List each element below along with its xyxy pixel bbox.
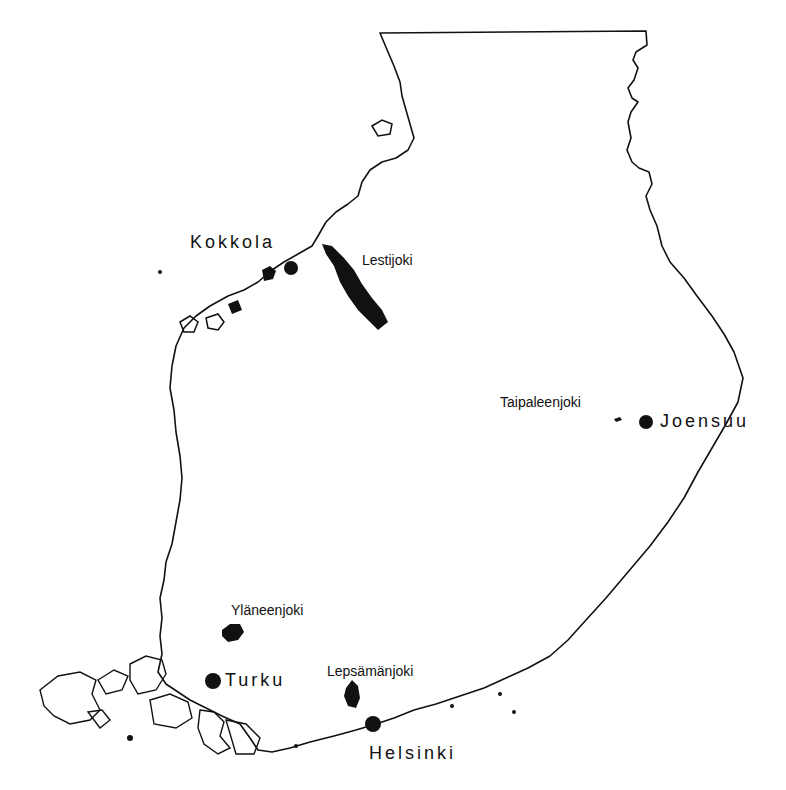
river-label-taipaleenjoki: Taipaleenjoki [500,394,581,410]
city-label-kokkola: Kokkola [190,232,275,253]
south-coast-islands [127,270,516,748]
turku-marker [205,673,221,689]
river-label-lestijoki: Lestijoki [362,252,413,268]
taipaleenjoki-catchment [614,417,622,422]
ylaneenjoki-catchment [222,624,244,642]
joensuu-marker [639,415,653,429]
lepsamanjoki-catchment [344,680,360,708]
country-outline [158,31,743,752]
river-label-ylaneenjoki: Yläneenjoki [231,602,303,618]
city-label-joensuu: Joensuu [660,411,749,432]
river-label-lepsamanjoki: Lepsämänjoki [327,663,413,679]
city-label-turku: Turku [225,670,285,691]
kokkola-marker [284,261,298,275]
helsinki-marker [365,716,381,732]
city-label-helsinki: Helsinki [369,743,456,764]
